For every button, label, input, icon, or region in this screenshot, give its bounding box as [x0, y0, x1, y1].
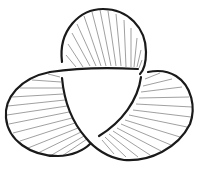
- inner-left-curve: [62, 71, 193, 160]
- knot-strands: [6, 9, 193, 160]
- top-lobe-arc: [62, 9, 146, 74]
- left-lobe-arc: [6, 72, 90, 156]
- trefoil-knot-diagram: [0, 0, 200, 176]
- right-lobe-hatching: [102, 73, 192, 157]
- inner-right-curve: [99, 77, 141, 136]
- top-crossbar: [50, 68, 138, 72]
